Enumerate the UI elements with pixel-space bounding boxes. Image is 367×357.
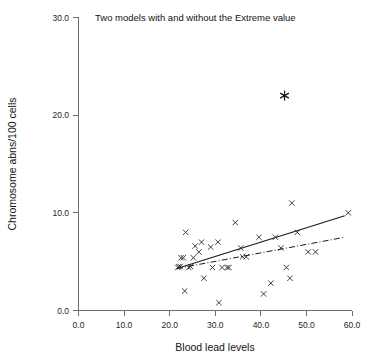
- data-point-marker: [313, 249, 318, 254]
- data-point-marker: [268, 280, 273, 285]
- x-tick-label: 10.0: [116, 320, 133, 330]
- scatter-plot-figure: 0.0 10.0 20.0 30.0 0.0 10.0 20.0 30.0 40…: [0, 0, 367, 357]
- data-point-marker: [182, 288, 187, 293]
- y-tick-label: 20.0: [52, 110, 69, 120]
- data-point-marker: [215, 239, 220, 244]
- data-point-marker: [256, 235, 261, 240]
- x-tick-label: 50.0: [298, 320, 315, 330]
- data-point-marker: [289, 200, 294, 205]
- x-axis-ticks: 0.0 10.0 20.0 30.0 40.0 50.0 60.0: [73, 311, 361, 331]
- data-point-marker: [199, 239, 204, 244]
- data-point-marker: [210, 265, 215, 270]
- data-point-marker: [219, 265, 224, 270]
- extreme-value-marker: [280, 91, 289, 101]
- data-point-marker: [287, 276, 292, 281]
- data-point-marker: [186, 265, 191, 270]
- data-point-marker: [196, 249, 201, 254]
- data-point-marker: [183, 230, 188, 235]
- y-tick-label: 10.0: [52, 208, 69, 218]
- data-point-marker: [261, 291, 266, 296]
- data-point-marker: [244, 254, 249, 259]
- data-point-marker: [346, 210, 351, 215]
- x-tick-label: 40.0: [253, 320, 270, 330]
- plot-canvas: 0.0 10.0 20.0 30.0 0.0 10.0 20.0 30.0 40…: [0, 0, 367, 357]
- data-points: [175, 91, 351, 306]
- y-axis-ticks: 0.0 10.0 20.0 30.0: [52, 13, 78, 316]
- data-point-marker: [306, 249, 311, 254]
- data-point-marker: [191, 255, 196, 260]
- data-point-marker: [201, 276, 206, 281]
- data-point-marker: [284, 265, 289, 270]
- x-axis-title: Blood lead levels: [175, 341, 254, 353]
- data-point-marker: [233, 220, 238, 225]
- x-tick-label: 20.0: [161, 320, 178, 330]
- chart-title: Two models with and without the Extreme …: [95, 12, 296, 23]
- x-tick-label: 60.0: [344, 320, 361, 330]
- x-tick-label: 30.0: [207, 320, 224, 330]
- y-tick-label: 0.0: [57, 306, 69, 316]
- y-axis-title: Chromosome abns/100 cells: [6, 97, 18, 230]
- x-tick-label: 0.0: [73, 320, 85, 330]
- data-point-marker: [208, 244, 213, 249]
- data-point-marker: [278, 245, 283, 250]
- y-tick-label: 30.0: [52, 13, 69, 23]
- data-point-marker: [192, 243, 197, 248]
- data-point-marker: [216, 300, 221, 305]
